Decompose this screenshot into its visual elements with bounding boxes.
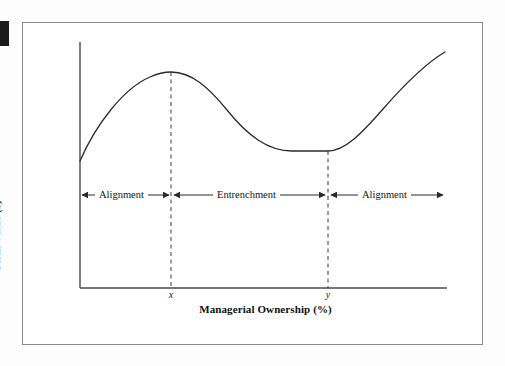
x-tick-label-y: y (318, 289, 338, 300)
region-label-entrenchment: Entrenchment (213, 189, 280, 201)
region-label-alignment-left: Alignment (95, 189, 148, 201)
x-tick-label-x: x (161, 289, 181, 300)
x-axis-title: Managerial Ownership (%) (0, 303, 505, 315)
firm-value-curve (80, 52, 445, 161)
region-label-alignment-right: Alignment (358, 189, 411, 201)
y-axis-title: Firm Value ($) (0, 170, 2, 270)
